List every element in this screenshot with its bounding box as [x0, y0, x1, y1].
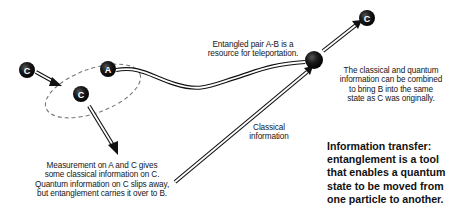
classical-information-label: Classical information	[244, 123, 294, 142]
measurement-label: Measurement on A and C gives some classi…	[22, 161, 182, 199]
combined-line-3: to bring B into the same	[323, 85, 459, 94]
svg-text:A: A	[105, 65, 112, 75]
caption-line-2: entanglement is a tool	[327, 153, 462, 166]
entangled-pair-line-2: resource for teleportation.	[178, 49, 328, 58]
caption-line-5: one particle to another.	[327, 193, 462, 206]
particle-c-result: C	[359, 10, 375, 26]
svg-text:C: C	[78, 90, 85, 100]
figure-caption: Information transfer: entanglement is a …	[327, 140, 462, 206]
combined-line-2: information can be combined	[323, 75, 459, 84]
measurement-line-2: some classical information on C.	[22, 170, 182, 179]
svg-text:C: C	[24, 66, 31, 76]
measurement-line-3: Quantum information on C slips away,	[22, 180, 182, 189]
particle-a: A	[100, 61, 116, 77]
arrow-c-incoming	[36, 72, 62, 86]
entangled-pair-line-1: Entangled pair A-B is a	[178, 40, 328, 49]
classical-line-2: information	[244, 132, 294, 141]
particle-c-incoming: C	[19, 62, 35, 78]
particle-c-measured: C	[73, 86, 89, 102]
arrow-b-to-c	[323, 20, 362, 51]
arrow-measurement	[89, 106, 118, 155]
caption-line-1: Information transfer:	[327, 140, 462, 153]
combined-line-4: state as C was originally.	[323, 94, 459, 103]
entanglement-link	[116, 62, 305, 88]
measurement-line-4: but entanglement carries it over to B.	[22, 189, 182, 198]
measurement-line-1: Measurement on A and C gives	[22, 161, 182, 170]
measurement-ellipse	[38, 53, 147, 129]
classical-line-1: Classical	[244, 123, 294, 132]
svg-text:C: C	[364, 14, 371, 24]
combined-info-label: The classical and quantum information ca…	[323, 66, 459, 104]
caption-line-4: state to be moved from	[327, 180, 462, 193]
entangled-pair-label: Entangled pair A-B is a resource for tel…	[178, 40, 328, 59]
combined-line-1: The classical and quantum	[323, 66, 459, 75]
caption-line-3: that enables a quantum	[327, 166, 462, 179]
